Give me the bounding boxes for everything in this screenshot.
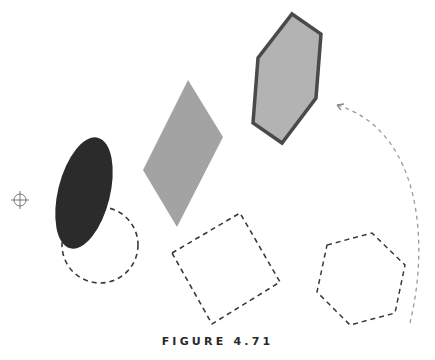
filled-hexagon (253, 14, 321, 143)
crosshair-icon (11, 191, 29, 209)
arrowhead-icon (337, 104, 344, 110)
dashed-arrow (337, 105, 419, 323)
figure-caption: FIGURE 4.71 (0, 335, 435, 348)
figure-canvas (0, 0, 435, 360)
dashed-hexagon (317, 233, 405, 325)
dashed-square (172, 213, 280, 324)
filled-diamond (143, 80, 223, 227)
filled-ellipse (45, 131, 123, 254)
